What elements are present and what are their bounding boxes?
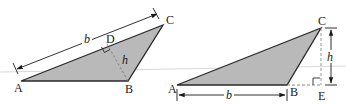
left-figure: b h A B C D — [13, 8, 174, 96]
left-vertex-b-label: B — [125, 82, 133, 96]
right-foot-e-label: E — [318, 89, 325, 103]
left-foot-d-label: D — [106, 32, 115, 46]
left-vertex-a-label: A — [14, 81, 23, 95]
left-vertex-c-label: C — [166, 13, 174, 27]
triangle-area-diagram: b h A B C D b h A B C E — [0, 0, 346, 104]
right-right-angle-marker — [313, 78, 320, 85]
right-base-label: b — [226, 88, 232, 102]
left-height-label: h — [122, 53, 128, 67]
right-figure: b h A B C E — [168, 14, 337, 103]
right-vertex-a-label: A — [168, 82, 177, 96]
left-dim-tick-c — [153, 8, 159, 19]
right-vertex-c-label: C — [318, 14, 326, 28]
right-height-label: h — [327, 50, 333, 64]
right-triangle — [177, 28, 321, 85]
left-base-label: b — [84, 32, 90, 46]
right-vertex-b-label: B — [290, 85, 298, 99]
